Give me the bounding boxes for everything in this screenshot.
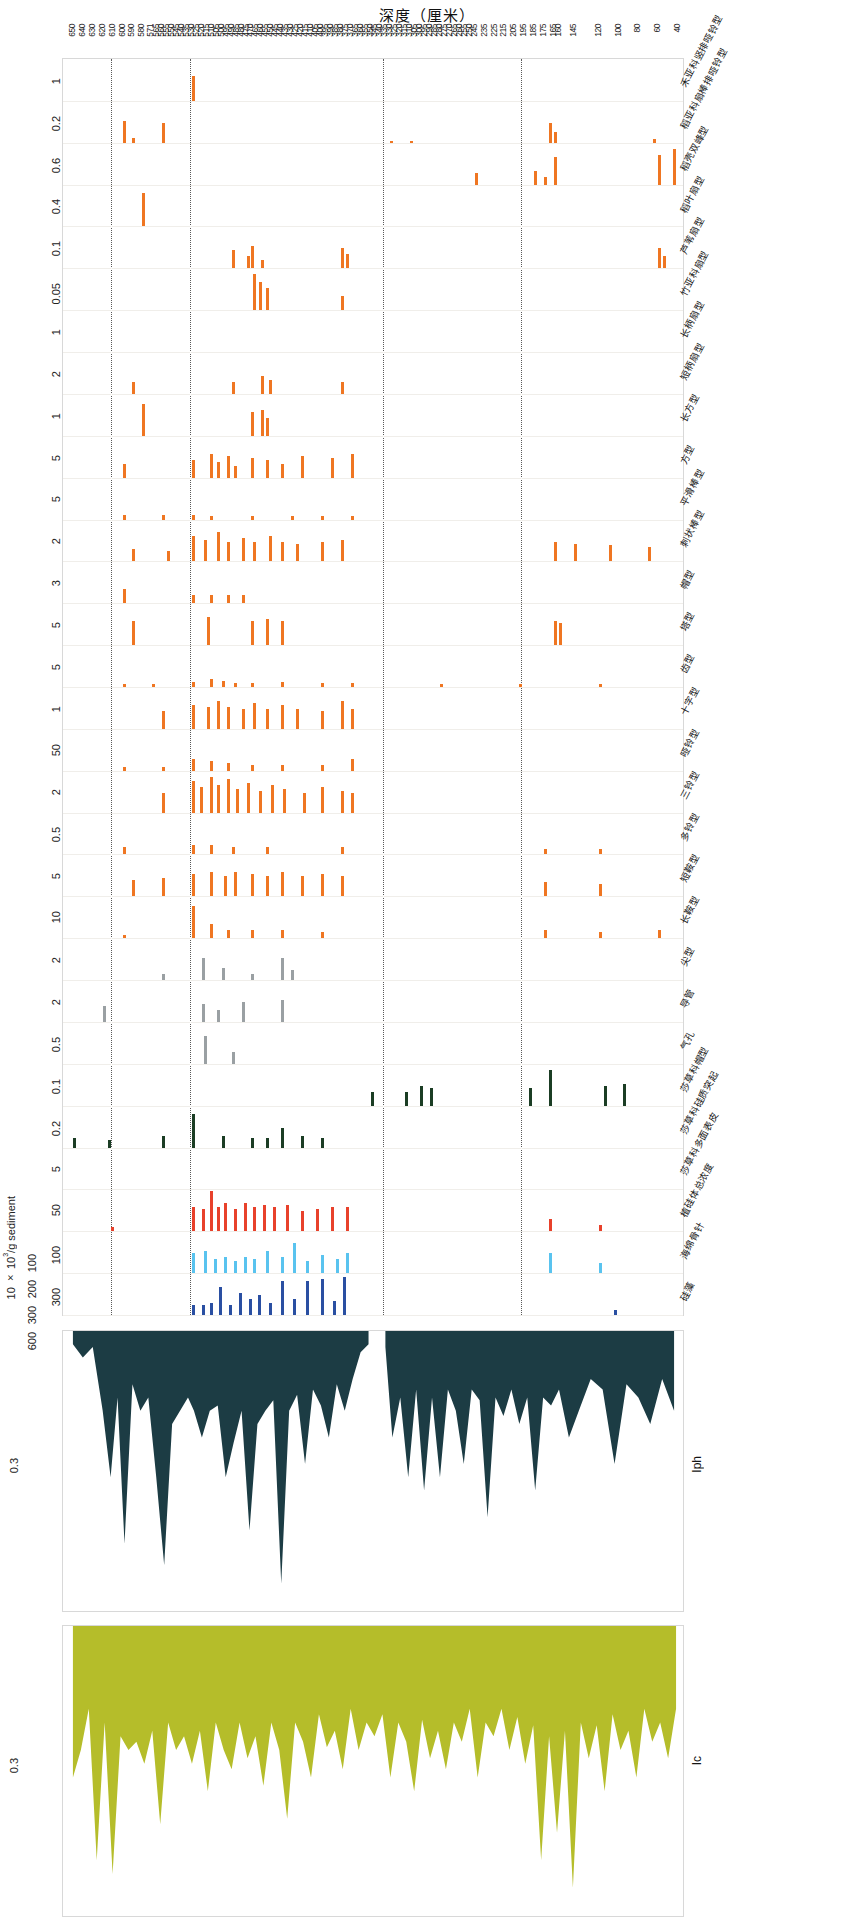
data-bar [251, 683, 254, 687]
data-bar [251, 458, 254, 478]
data-bar [192, 906, 195, 938]
units-axis-label: 10 × 103/g sediment [2, 1196, 17, 1299]
data-bar [132, 382, 135, 394]
data-bar [232, 382, 235, 394]
secondary-scale-label: 300 [0, 1306, 38, 1326]
data-bar [214, 1259, 217, 1273]
data-bar [316, 1209, 319, 1231]
data-bar [142, 404, 145, 436]
data-bar [351, 454, 354, 478]
data-bar [227, 930, 230, 938]
data-bar [609, 545, 612, 561]
data-bar [192, 595, 195, 603]
data-bar [281, 958, 284, 980]
data-bar [291, 970, 294, 980]
data-bar [247, 256, 250, 268]
data-bar [266, 1138, 269, 1148]
data-bar [266, 619, 269, 645]
index-area-path [73, 1626, 676, 1888]
data-bar [251, 412, 254, 436]
depth-tick: 610 [108, 24, 116, 37]
data-bar [162, 711, 165, 729]
depth-tick: 60 [653, 24, 661, 32]
taxon-label: 稻壳双峰型 [676, 122, 712, 173]
data-bar [331, 458, 334, 478]
data-bar [321, 1255, 324, 1273]
data-bar [266, 288, 269, 310]
row-scale-label: 1 [0, 325, 62, 337]
row-baseline [63, 1064, 683, 1065]
data-bar [200, 787, 203, 813]
data-bar [614, 1310, 617, 1315]
data-bar [549, 123, 552, 143]
data-bar [266, 709, 269, 729]
data-bar [303, 793, 306, 813]
row-scale-label: 3 [0, 576, 62, 588]
data-bar [351, 709, 354, 729]
data-bar [210, 595, 213, 603]
data-bar [281, 1281, 284, 1315]
data-bar [321, 1138, 324, 1148]
data-bar [321, 1279, 324, 1315]
data-bar [204, 1036, 207, 1064]
row-scale-label: 5 [0, 451, 62, 463]
row-baseline [63, 980, 683, 981]
data-bar [261, 260, 264, 268]
data-bar [281, 542, 284, 562]
row-scale-label: 5 [0, 493, 62, 505]
data-bar [296, 544, 299, 562]
data-bar [263, 1205, 266, 1231]
data-bar [202, 1004, 205, 1022]
depth-tick: 235 [480, 24, 488, 37]
data-bar [534, 171, 537, 185]
data-bar [192, 460, 195, 478]
data-bar [475, 173, 478, 185]
data-bar [204, 1251, 207, 1273]
data-bar [251, 246, 254, 268]
data-bar [227, 595, 230, 603]
data-bar [273, 1207, 276, 1231]
data-bar [281, 1257, 284, 1273]
data-bar [123, 515, 126, 520]
data-bar [281, 872, 284, 896]
data-bar [123, 767, 126, 771]
data-bar [544, 849, 547, 855]
data-bar [192, 682, 195, 687]
row-scale-label: 5 [0, 618, 62, 630]
data-bar [192, 759, 195, 771]
depth-tick: 640 [78, 24, 86, 37]
data-bar [242, 1002, 245, 1022]
row-scale-label: 0.05 [0, 283, 62, 306]
data-bar [123, 121, 126, 143]
data-bar [162, 767, 165, 771]
data-bar [234, 872, 237, 896]
index-panel-label: Ic [690, 1756, 704, 1765]
row-scale-label: 0.5 [0, 827, 62, 844]
data-bar [549, 1219, 552, 1231]
data-bar [253, 274, 256, 310]
row-scale-label: 0.1 [0, 1079, 62, 1096]
row-baseline [63, 813, 683, 814]
data-bar [333, 1301, 336, 1315]
data-bar [554, 157, 557, 185]
row-baseline [63, 226, 683, 227]
index-scale-label: 0.3 [8, 1758, 20, 1773]
scale-axis: 10.20.60.40.10.0512155235515020.5510220.… [0, 58, 62, 1318]
row-baseline [63, 603, 683, 604]
data-bar [232, 1052, 235, 1064]
data-bar [251, 974, 254, 980]
data-bar [162, 515, 165, 520]
depth-tick: 225 [490, 24, 498, 37]
data-bar [210, 1303, 213, 1315]
data-bar [210, 924, 213, 938]
depth-tick: 185 [529, 24, 537, 37]
data-bar [321, 932, 324, 938]
data-bar [544, 930, 547, 938]
row-baseline [63, 896, 683, 897]
data-bar [341, 296, 344, 310]
data-bar [343, 1277, 346, 1315]
row-scale-label: 1 [0, 702, 62, 714]
phytolith-stratigraphic-plot [62, 58, 684, 1316]
data-bar [321, 874, 324, 896]
data-bar [271, 785, 274, 813]
